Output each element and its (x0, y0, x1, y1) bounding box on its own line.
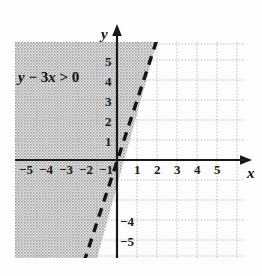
inequality-graph-figure: y − 3x > 0 y x −5 −4 −3 −2 −1 1 2 3 4 5 … (0, 0, 262, 276)
x-tick-label-4: 4 (194, 163, 201, 176)
x-tick-label-neg2: −2 (79, 163, 93, 176)
x-tick-label-neg1: −1 (99, 163, 113, 176)
x-tick-label-2: 2 (154, 163, 161, 176)
x-axis-label: x (247, 166, 255, 181)
y-axis-label: y (101, 27, 108, 42)
x-tick-label-1: 1 (134, 163, 141, 176)
inequality-x-term: x (48, 69, 56, 85)
y-tick-label-3: 3 (105, 95, 112, 108)
inequality-annotation: y − 3x > 0 (18, 70, 79, 85)
y-tick-label-1: 1 (105, 135, 112, 148)
inequality-minus-term: − 3 (25, 69, 49, 85)
x-tick-label-neg5: −5 (19, 163, 33, 176)
y-tick-label-4: 4 (105, 75, 112, 88)
x-tick-label-neg4: −4 (39, 163, 53, 176)
inequality-y-term: y (18, 69, 25, 85)
inequality-relation: > 0 (56, 69, 80, 85)
y-tick-label-2: 2 (105, 115, 112, 128)
x-tick-label-3: 3 (174, 163, 181, 176)
x-tick-label-neg3: −3 (59, 163, 73, 176)
y-tick-label-neg4: −4 (120, 215, 134, 228)
y-tick-label-neg5: −5 (120, 235, 134, 248)
y-tick-label-5: 5 (105, 55, 112, 68)
x-tick-label-5: 5 (214, 163, 221, 176)
